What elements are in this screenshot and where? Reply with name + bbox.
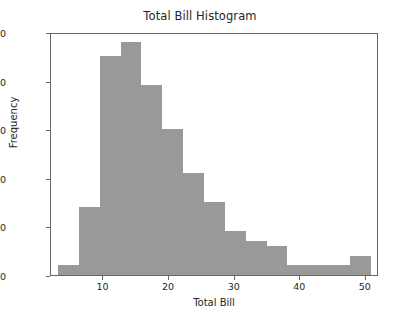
y-tick-mark	[46, 276, 50, 277]
histogram-bar	[350, 256, 371, 275]
histogram-bar	[329, 265, 350, 275]
y-tick-label: 10	[0, 222, 6, 233]
x-tick-label: 10	[82, 281, 122, 292]
y-tick-mark	[46, 33, 50, 34]
y-tick-label: 30	[0, 125, 6, 136]
y-axis-label: Frequency	[8, 63, 19, 183]
x-tick-label: 30	[214, 281, 254, 292]
chart-title: Total Bill Histogram	[0, 9, 400, 23]
histogram-bar	[267, 246, 288, 275]
y-tick-label: 50	[0, 28, 6, 39]
x-tick-mark	[299, 276, 300, 280]
histogram-bar	[141, 85, 162, 275]
y-tick-mark	[46, 82, 50, 83]
x-tick-mark	[168, 276, 169, 280]
histogram-bar	[308, 265, 329, 275]
histogram-bar	[246, 241, 267, 275]
histogram-figure: Total Bill Histogram 01020304050 Frequen…	[0, 0, 400, 320]
histogram-bar	[100, 56, 121, 275]
histogram-bar	[162, 129, 183, 275]
y-tick-mark	[46, 179, 50, 180]
y-tick-mark	[46, 130, 50, 131]
x-tick-label: 20	[148, 281, 188, 292]
x-tick-mark	[365, 276, 366, 280]
y-tick-label: 0	[0, 271, 6, 282]
histogram-bar	[79, 207, 100, 275]
y-tick-label: 20	[0, 173, 6, 184]
y-tick-label: 40	[0, 76, 6, 87]
histogram-bar	[204, 202, 225, 275]
x-tick-label: 40	[279, 281, 319, 292]
y-tick-mark	[46, 227, 50, 228]
x-axis-label: Total Bill	[50, 297, 378, 308]
plot-area	[50, 33, 378, 276]
x-tick-mark	[234, 276, 235, 280]
x-tick-label: 50	[345, 281, 385, 292]
histogram-bar	[287, 265, 308, 275]
x-tick-mark	[102, 276, 103, 280]
histogram-bar	[121, 42, 142, 275]
histogram-bar	[58, 265, 79, 275]
histogram-bar	[183, 173, 204, 275]
histogram-bar	[225, 231, 246, 275]
bar-series	[51, 34, 377, 275]
